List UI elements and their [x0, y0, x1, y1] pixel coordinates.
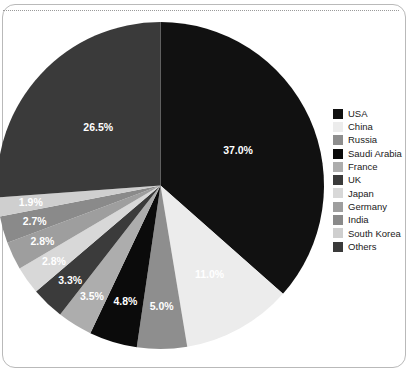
legend-item[interactable]: Saudi Arabia	[333, 147, 407, 160]
legend-swatch-icon	[333, 242, 343, 252]
legend-swatch-icon	[333, 188, 343, 198]
legend-item[interactable]: Germany	[333, 200, 407, 213]
legend-swatch-icon	[333, 149, 343, 159]
legend-swatch-icon	[333, 202, 343, 212]
legend-swatch-icon	[333, 135, 343, 145]
legend-item[interactable]: France	[333, 160, 407, 173]
legend-item-label: France	[348, 162, 378, 172]
legend-swatch-icon	[333, 228, 343, 238]
legend-item[interactable]: UK	[333, 173, 407, 186]
legend-swatch-icon	[333, 162, 343, 172]
pie-slice-value-label: 1.9%	[19, 196, 44, 208]
pie-slice-value-label: 2.8%	[42, 255, 67, 267]
legend-swatch-icon	[333, 109, 343, 119]
pie-slice-value-label: 37.0%	[223, 144, 253, 156]
legend-item-label: India	[348, 215, 369, 225]
legend-item[interactable]: Others	[333, 240, 407, 253]
chart-legend: USAChinaRussiaSaudi ArabiaFranceUKJapanG…	[333, 107, 407, 253]
legend-item-label: UK	[348, 175, 361, 185]
legend-item[interactable]: Russia	[333, 134, 407, 147]
pie-slice-value-label: 3.3%	[58, 274, 83, 286]
pie-slice-value-label: 4.8%	[113, 295, 138, 307]
legend-item[interactable]: Japan	[333, 187, 407, 200]
legend-item-label: Russia	[348, 135, 377, 145]
pie-slice[interactable]	[0, 22, 160, 197]
legend-item-label: Others	[348, 242, 377, 252]
legend-item-label: China	[348, 122, 373, 132]
chart-page: 37.0%11.0%5.0%4.8%3.5%3.3%2.8%2.8%2.7%1.…	[0, 0, 412, 375]
pie-slice-value-label: 3.5%	[80, 290, 105, 302]
pie-slice-value-label: 11.0%	[195, 268, 225, 280]
legend-item[interactable]: India	[333, 213, 407, 226]
legend-item[interactable]: USA	[333, 107, 407, 120]
legend-item[interactable]: China	[333, 120, 407, 133]
legend-item-label: Saudi Arabia	[348, 149, 402, 159]
pie-slice-value-label: 2.7%	[23, 215, 48, 227]
pie-slice-value-label: 26.5%	[83, 121, 113, 133]
legend-swatch-icon	[333, 122, 343, 132]
legend-swatch-icon	[333, 175, 343, 185]
legend-item-label: South Korea	[348, 229, 401, 239]
legend-item-label: Japan	[348, 189, 374, 199]
legend-item-label: Germany	[348, 202, 387, 212]
legend-swatch-icon	[333, 215, 343, 225]
pie-slice-value-label: 5.0%	[150, 300, 175, 312]
legend-item[interactable]: South Korea	[333, 227, 407, 240]
legend-item-label: USA	[348, 109, 368, 119]
pie-slice-value-label: 2.8%	[30, 235, 55, 247]
